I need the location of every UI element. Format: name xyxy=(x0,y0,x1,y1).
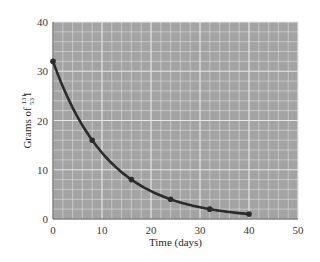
x-tick-label: 30 xyxy=(195,224,207,236)
x-axis-title: Time (days) xyxy=(149,236,202,249)
y-axis-title: Grams of 13153I xyxy=(20,92,36,149)
svg-text:Grams of 13153I: Grams of 13153I xyxy=(20,92,36,149)
y-tick-label: 20 xyxy=(37,115,49,127)
x-tick-label: 50 xyxy=(293,224,305,236)
x-tick-label: 0 xyxy=(50,224,56,236)
y-axis-ticks: 010203040 xyxy=(37,16,49,225)
data-point xyxy=(89,137,95,143)
data-point xyxy=(207,206,213,212)
y-tick-label: 30 xyxy=(37,65,49,77)
data-point xyxy=(168,197,174,203)
data-point xyxy=(246,211,252,217)
y-tick-label: 40 xyxy=(37,16,49,28)
y-tick-label: 0 xyxy=(43,213,49,225)
x-tick-label: 10 xyxy=(97,224,109,236)
data-point xyxy=(50,59,56,65)
grid-lines xyxy=(53,22,298,219)
x-tick-label: 20 xyxy=(146,224,158,236)
x-axis-ticks: 01020304050 xyxy=(50,224,304,236)
data-point xyxy=(129,177,135,183)
decay-chart: 010203040 01020304050 Time (days) Grams … xyxy=(0,0,320,262)
y-tick-label: 10 xyxy=(37,164,49,176)
x-tick-label: 40 xyxy=(244,224,256,236)
